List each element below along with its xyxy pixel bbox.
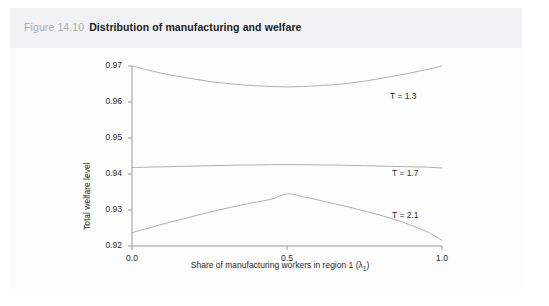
chart-line-series-1 [132, 66, 442, 87]
x-axis-title-close: ) [366, 260, 369, 270]
y-tick-label: 0.97 [92, 60, 122, 70]
page-title: Distribution of manufacturing and welfar… [89, 21, 301, 33]
figure-header-band: Figure 14.10Distribution of manufacturin… [10, 8, 522, 48]
series-label-t21: T = 2.1 [392, 210, 419, 220]
series-label-t13: T = 1.3 [390, 91, 417, 101]
x-tick-label: 0.5 [272, 253, 302, 263]
figure-card: Figure 14.10Distribution of manufacturin… [10, 8, 522, 290]
x-axis-ticks [132, 246, 442, 250]
y-tick-label: 0.95 [92, 132, 122, 142]
x-tick-label: 0.0 [117, 253, 147, 263]
figure-caption: Figure 14.10Distribution of manufacturin… [24, 20, 302, 34]
x-tick-label: 1.0 [427, 253, 457, 263]
y-axis-ticks [128, 66, 132, 246]
y-tick-label: 0.93 [92, 204, 122, 214]
series-label-t17: T = 1.7 [392, 168, 419, 178]
figure-body: Total welfare level Share of manufacturi… [10, 48, 522, 290]
y-tick-label: 0.92 [92, 240, 122, 250]
y-tick-label: 0.94 [92, 168, 122, 178]
y-axis-title: Total welfare level [82, 162, 92, 230]
chart-plot-area: Total welfare level Share of manufacturi… [10, 48, 522, 290]
figure-number: Figure 14.10 [24, 21, 84, 33]
y-tick-label: 0.96 [92, 96, 122, 106]
